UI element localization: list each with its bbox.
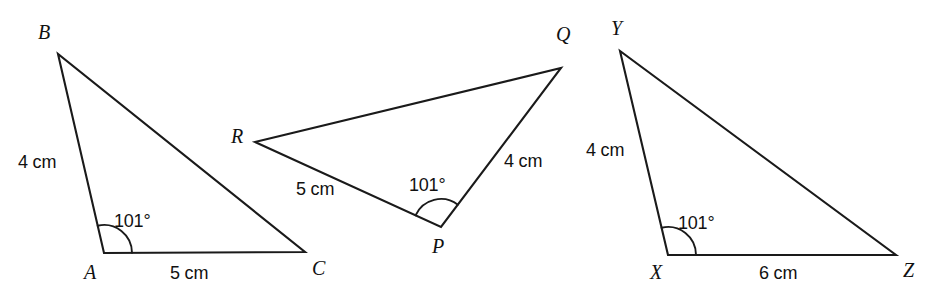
vertex-label-q: Q <box>556 24 570 44</box>
triangles-svg <box>0 0 929 303</box>
side-label-ac: 5 cm <box>170 264 208 282</box>
vertex-label-z: Z <box>903 260 914 280</box>
vertex-label-p: P <box>432 236 444 256</box>
vertex-label-y: Y <box>611 18 622 38</box>
angle-label-x: 101° <box>678 214 714 232</box>
side-label-ab: 4 cm <box>18 153 56 171</box>
side-label-xy: 4 cm <box>586 141 624 159</box>
degree-symbol-icon: ° <box>438 175 445 195</box>
angle-label-x-value: 101 <box>678 213 707 233</box>
degree-symbol-icon: ° <box>707 213 714 233</box>
vertex-label-x: X <box>650 262 662 282</box>
side-label-xz: 6 cm <box>759 264 797 282</box>
vertex-label-b: B <box>38 22 50 42</box>
triangle-xyz-shape <box>620 51 896 255</box>
triangle-pqr-outline <box>255 68 561 227</box>
degree-symbol-icon: ° <box>143 211 150 231</box>
angle-label-a-value: 101 <box>114 211 143 231</box>
side-label-rp: 5 cm <box>296 180 334 198</box>
triangle-xyz-outline <box>620 51 896 255</box>
vertex-label-a: A <box>84 262 96 282</box>
triangle-abc-outline <box>58 54 305 253</box>
triangle-abc-shape <box>58 54 305 253</box>
angle-label-p-value: 101 <box>409 175 438 195</box>
triangle-pqr-shape <box>255 68 561 227</box>
diagram-canvas: B A C 4 cm 5 cm 101° R Q P 5 cm 4 cm 101… <box>0 0 929 303</box>
side-label-pq: 4 cm <box>504 152 542 170</box>
vertex-label-r: R <box>231 126 243 146</box>
angle-label-a: 101° <box>114 212 150 230</box>
vertex-label-c: C <box>312 258 325 278</box>
angle-label-p: 101° <box>409 176 445 194</box>
